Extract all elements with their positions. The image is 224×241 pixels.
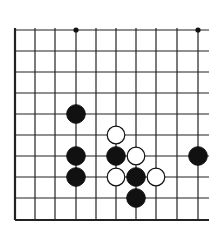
go-board-diagram xyxy=(0,0,224,241)
white-stone-icon xyxy=(127,147,145,165)
star-point-icon xyxy=(73,27,78,32)
black-stone-icon xyxy=(67,105,86,124)
black-stone-icon xyxy=(67,168,86,187)
black-stone-icon xyxy=(67,147,86,166)
black-stone-icon xyxy=(127,189,146,208)
black-stone-icon xyxy=(189,147,208,166)
board-grid xyxy=(15,28,209,220)
star-point-icon xyxy=(195,27,200,32)
black-stone-icon xyxy=(107,147,126,166)
black-stone-icon xyxy=(127,168,146,187)
white-stone-icon xyxy=(147,168,165,186)
white-stone-icon xyxy=(107,168,125,186)
white-stone-icon xyxy=(107,126,125,144)
